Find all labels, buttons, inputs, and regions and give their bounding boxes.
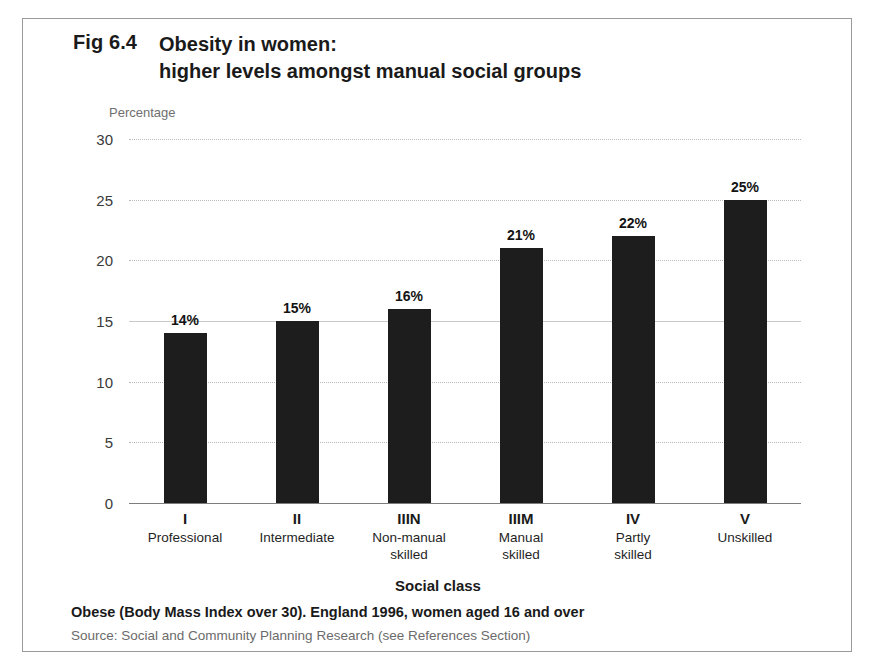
figure-source-note: Source: Social and Community Planning Re… xyxy=(71,628,530,643)
gridline-0 xyxy=(129,503,801,504)
bar-value-label-IIIM: 21% xyxy=(507,227,535,243)
bar-value-label-IIIN: 16% xyxy=(395,288,423,304)
x-tick-code: IIIN xyxy=(349,509,469,529)
bar-IIIN xyxy=(388,309,431,503)
figure-title-line-1: Obesity in women: xyxy=(159,31,789,58)
bar-IV xyxy=(612,236,655,503)
x-tick-name: skilled xyxy=(349,546,469,563)
x-tick-name: Unskilled xyxy=(685,529,805,546)
x-axis-tick-labels: IProfessionalIIIntermediateIIINNon-manua… xyxy=(129,509,801,581)
y-tick-label-25: 25 xyxy=(96,191,113,208)
x-tick-name: Non-manual xyxy=(349,529,469,546)
gridline-15 xyxy=(129,321,801,322)
x-tick-IV: IVPartlyskilled xyxy=(573,509,693,563)
x-tick-name: skilled xyxy=(461,546,581,563)
bar-V xyxy=(724,200,767,503)
figure-frame: Fig 6.4 Obesity in women: higher levels … xyxy=(22,18,852,652)
gridline-25 xyxy=(129,200,801,201)
x-tick-code: II xyxy=(237,509,357,529)
figure-title-block: Fig 6.4 Obesity in women: higher levels … xyxy=(73,31,813,85)
x-axis-title: Social class xyxy=(23,577,853,594)
x-tick-name: Professional xyxy=(125,529,245,546)
gridline-10 xyxy=(129,382,801,383)
x-tick-name: Manual xyxy=(461,529,581,546)
y-tick-label-15: 15 xyxy=(96,313,113,330)
bar-value-label-IV: 22% xyxy=(619,215,647,231)
x-tick-name: Intermediate xyxy=(237,529,357,546)
gridline-30 xyxy=(129,139,801,140)
bar-value-label-V: 25% xyxy=(731,179,759,195)
x-tick-V: VUnskilled xyxy=(685,509,805,546)
x-tick-II: IIIntermediate xyxy=(237,509,357,546)
y-tick-label-30: 30 xyxy=(96,131,113,148)
bar-value-label-I: 14% xyxy=(171,312,199,328)
x-tick-IIIN: IIINNon-manualskilled xyxy=(349,509,469,563)
bar-IIIM xyxy=(500,248,543,503)
figure-title-line-2: higher levels amongst manual social grou… xyxy=(159,58,789,85)
plot-area: 05101520253014%15%16%21%22%25% xyxy=(129,139,801,503)
y-tick-label-20: 20 xyxy=(96,252,113,269)
x-tick-IIIM: IIIMManualskilled xyxy=(461,509,581,563)
bar-I xyxy=(164,333,207,503)
y-axis-caption: Percentage xyxy=(109,105,176,120)
gridline-5 xyxy=(129,442,801,443)
y-tick-label-10: 10 xyxy=(96,373,113,390)
x-tick-code: IV xyxy=(573,509,693,529)
x-tick-code: V xyxy=(685,509,805,529)
x-tick-name: skilled xyxy=(573,546,693,563)
gridline-20 xyxy=(129,260,801,261)
x-tick-I: IProfessional xyxy=(125,509,245,546)
x-tick-code: IIIM xyxy=(461,509,581,529)
x-tick-name: Partly xyxy=(573,529,693,546)
figure-footnote: Obese (Body Mass Index over 30). England… xyxy=(71,604,584,620)
x-tick-code: I xyxy=(125,509,245,529)
figure-title: Obesity in women: higher levels amongst … xyxy=(159,31,789,85)
bar-II xyxy=(276,321,319,503)
bar-value-label-II: 15% xyxy=(283,300,311,316)
y-tick-label-0: 0 xyxy=(105,495,113,512)
y-tick-label-5: 5 xyxy=(105,434,113,451)
figure-number: Fig 6.4 xyxy=(73,31,159,54)
